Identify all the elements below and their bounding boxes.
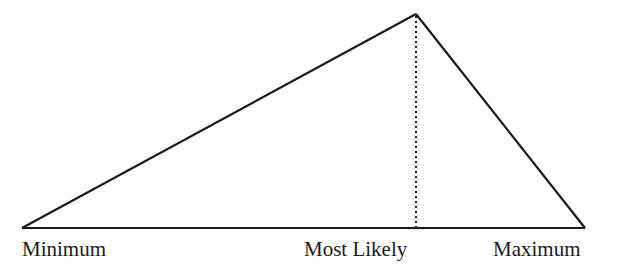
label-maximum: Maximum [493,239,581,260]
falling-edge [416,14,585,228]
rising-edge [22,14,416,228]
label-most-likely: Most Likely [304,239,407,260]
label-minimum: Minimum [22,239,106,260]
